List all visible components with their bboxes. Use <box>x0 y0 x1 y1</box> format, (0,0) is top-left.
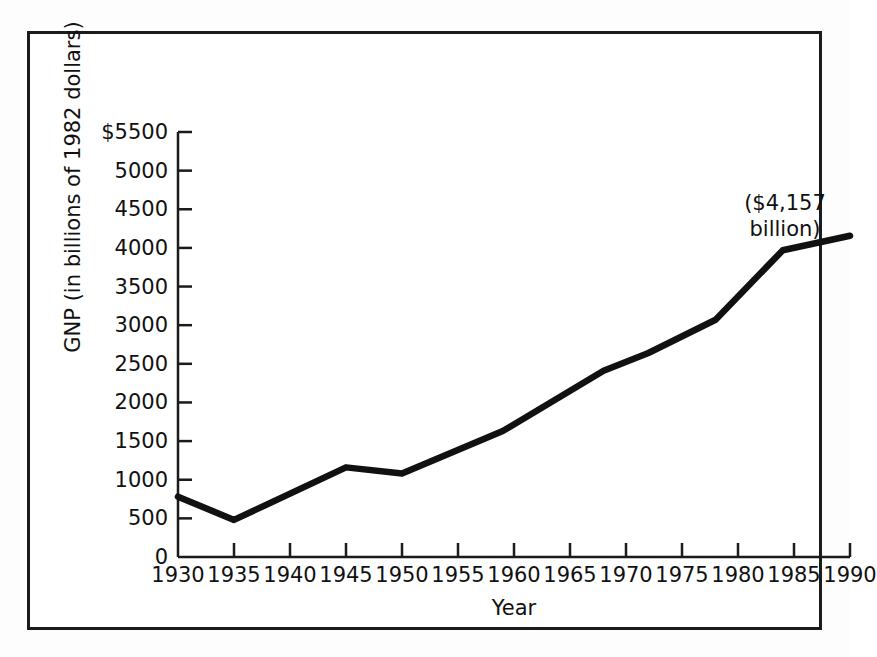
x-axis-tick-label: 1965 <box>543 563 596 587</box>
y-axis-tick-label: 3500 <box>115 275 168 299</box>
x-axis-tick-labels: 1930193519401945195019551960196519701975… <box>178 563 850 593</box>
annotation-final-value: ($4,157 billion) <box>730 191 840 242</box>
y-axis-title: GNP (in billions of 1982 dollars) <box>61 21 85 352</box>
figure-border: 0500100015002000250030003500400045005000… <box>27 31 822 630</box>
x-axis-tick-label: 1955 <box>431 563 484 587</box>
x-axis-tick-label: 1980 <box>711 563 764 587</box>
y-axis-tick-label: 1000 <box>115 468 168 492</box>
x-axis-tick-label: 1950 <box>375 563 428 587</box>
y-axis-tick-label: $5500 <box>101 120 168 144</box>
y-axis-title-container: GNP (in billions of 1982 dollars) <box>59 0 87 382</box>
x-axis-tick-label: 1935 <box>207 563 260 587</box>
x-axis-tick-label: 1990 <box>823 563 876 587</box>
y-axis-tick-label: 3000 <box>115 313 168 337</box>
x-axis-tick-label: 1985 <box>767 563 820 587</box>
y-axis-tick-label: 4000 <box>115 236 168 260</box>
y-axis-tick-label: 2500 <box>115 352 168 376</box>
y-axis-ticks <box>178 132 192 518</box>
y-axis-tick-label: 2000 <box>115 390 168 414</box>
y-axis-tick-label: 1500 <box>115 429 168 453</box>
x-axis-title: Year <box>178 596 850 620</box>
x-axis-tick-label: 1975 <box>655 563 708 587</box>
y-axis-tick-label: 500 <box>128 506 168 530</box>
data-series-gnp <box>178 236 850 520</box>
annotation-line-2: billion) <box>730 217 840 243</box>
x-axis-tick-label: 1930 <box>151 563 204 587</box>
y-axis-tick-label: 4500 <box>115 197 168 221</box>
y-axis-tick-label: 5000 <box>115 159 168 183</box>
x-axis-tick-label: 1945 <box>319 563 372 587</box>
x-axis-tick-label: 1970 <box>599 563 652 587</box>
x-axis-tick-label: 1960 <box>487 563 540 587</box>
annotation-line-1: ($4,157 <box>730 191 840 217</box>
x-axis-ticks <box>234 543 850 557</box>
y-axis-tick-labels: 0500100015002000250030003500400045005000… <box>30 132 168 557</box>
x-axis-tick-label: 1940 <box>263 563 316 587</box>
